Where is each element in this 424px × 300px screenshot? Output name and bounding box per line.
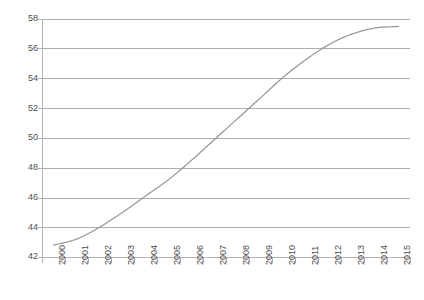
y-tick-mark bbox=[38, 227, 42, 228]
gridline-54 bbox=[42, 78, 410, 79]
y-tick-label-58: 58 bbox=[8, 14, 38, 23]
series-line bbox=[54, 26, 399, 245]
x-tick-label-2015: 2015 bbox=[403, 245, 412, 265]
x-tick-mark bbox=[42, 258, 43, 263]
y-tick-mark bbox=[38, 168, 42, 169]
x-tick-label-2013: 2013 bbox=[357, 245, 366, 265]
gridline-44 bbox=[42, 227, 410, 228]
y-tick-mark bbox=[38, 78, 42, 79]
x-tick-label-2003: 2003 bbox=[127, 245, 136, 265]
y-tick-mark bbox=[38, 138, 42, 139]
x-tick-label-2014: 2014 bbox=[380, 245, 389, 265]
y-tick-label-56: 56 bbox=[8, 44, 38, 53]
gridline-50 bbox=[42, 138, 410, 139]
y-tick-label-48: 48 bbox=[8, 163, 38, 172]
y-tick-mark bbox=[38, 198, 42, 199]
x-tick-label-2007: 2007 bbox=[219, 245, 228, 265]
x-tick-label-2004: 2004 bbox=[150, 245, 159, 265]
x-tick-label-2010: 2010 bbox=[288, 245, 297, 265]
y-tick-mark bbox=[38, 108, 42, 109]
gridline-58 bbox=[42, 19, 410, 20]
x-tick-label-2009: 2009 bbox=[265, 245, 274, 265]
line-chart: 58 56 54 52 50 48 46 44 42 2000200120022… bbox=[0, 0, 424, 300]
y-tick-label-54: 54 bbox=[8, 74, 38, 83]
x-tick-label-2012: 2012 bbox=[334, 245, 343, 265]
y-tick-mark bbox=[38, 19, 42, 20]
gridline-52 bbox=[42, 108, 410, 109]
x-tick-label-2008: 2008 bbox=[242, 245, 251, 265]
y-tick-label-44: 44 bbox=[8, 223, 38, 232]
gridline-56 bbox=[42, 48, 410, 49]
y-tick-mark bbox=[38, 48, 42, 49]
x-tick-label-2000: 2000 bbox=[58, 245, 67, 265]
gridline-48 bbox=[42, 168, 410, 169]
y-axis-line bbox=[42, 19, 43, 258]
gridline-46 bbox=[42, 198, 410, 199]
x-tick-label-2001: 2001 bbox=[81, 245, 90, 265]
y-tick-label-42: 42 bbox=[8, 252, 38, 261]
x-tick-label-2005: 2005 bbox=[173, 245, 182, 265]
y-tick-label-52: 52 bbox=[8, 104, 38, 113]
y-tick-label-46: 46 bbox=[8, 193, 38, 202]
x-tick-label-2011: 2011 bbox=[311, 246, 320, 265]
x-tick-label-2002: 2002 bbox=[104, 245, 113, 265]
y-tick-label-50: 50 bbox=[8, 133, 38, 142]
x-tick-label-2006: 2006 bbox=[196, 245, 205, 265]
